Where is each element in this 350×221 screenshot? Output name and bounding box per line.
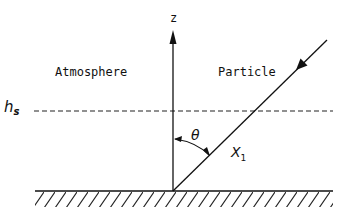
- z-axis-label: z: [170, 11, 177, 25]
- atmosphere-particle-diagram: z Atmosphere Particle hs θ X1: [0, 0, 350, 221]
- angle-arc-arrow-left-icon: [174, 136, 182, 142]
- ground-hatching: [35, 192, 333, 207]
- path-length-label: X1: [230, 144, 246, 163]
- region-particle-label: Particle: [218, 65, 276, 79]
- angle-label: θ: [191, 127, 200, 143]
- region-atmosphere-label: Atmosphere: [55, 65, 127, 79]
- height-label: hs: [4, 98, 20, 117]
- z-axis-arrow-icon: [170, 30, 177, 44]
- angle-arc-arrow-right-icon: [203, 147, 210, 156]
